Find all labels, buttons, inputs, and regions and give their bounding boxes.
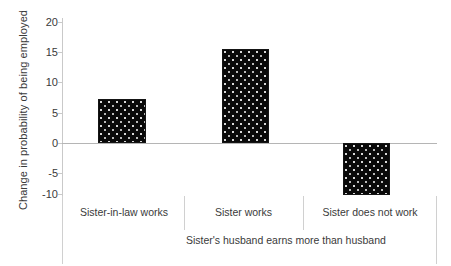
category-separator	[436, 196, 437, 264]
bar-sister-does-not-work	[343, 143, 390, 195]
bar-chart: Change in probability of being employed …	[0, 0, 451, 266]
y-axis-tick-labels: 20 15 10 5 0 -5 -10	[28, 0, 58, 266]
y-tick-label: 20	[30, 17, 58, 28]
y-tick-mark	[58, 52, 63, 53]
category-label-sister-does-not-work: Sister does not work	[305, 206, 435, 218]
y-tick-mark	[58, 82, 63, 83]
y-tick-mark	[58, 173, 63, 174]
y-tick-label: -10	[30, 189, 58, 200]
category-separator	[62, 196, 63, 264]
y-tick-mark	[58, 22, 63, 23]
group-label: Sister's husband earns more than husband	[186, 234, 386, 246]
category-axis: Sister-in-law works Sister works Sister …	[62, 196, 437, 266]
bar-sister-works	[222, 49, 269, 143]
y-tick-mark	[58, 113, 63, 114]
y-tick-label: 10	[30, 77, 58, 88]
y-tick-label: -5	[30, 168, 58, 179]
plot-area	[62, 18, 437, 196]
category-separator	[303, 196, 304, 230]
y-tick-label: 5	[30, 108, 58, 119]
category-label-sister-works: Sister works	[186, 206, 301, 218]
y-tick-label: 15	[30, 47, 58, 58]
bar-sister-in-law-works	[98, 99, 146, 143]
y-axis-line	[62, 18, 63, 196]
y-tick-label: 0	[30, 138, 58, 149]
category-label-sister-in-law-works: Sister-in-law works	[66, 206, 182, 218]
y-tick-mark	[58, 194, 63, 195]
category-separator	[184, 196, 185, 230]
